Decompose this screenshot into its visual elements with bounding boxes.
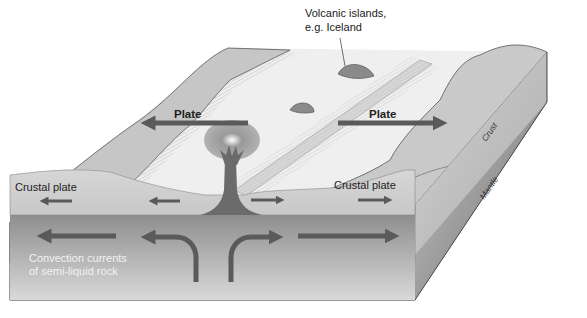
label-convection-1: Convection currents [29, 252, 127, 264]
label-crustal-plate-right: Crustal plate [334, 179, 396, 191]
eruption-plume [204, 120, 260, 160]
plate-tectonics-diagram: Volcanic islands, e.g. Iceland Plate Pla… [0, 0, 587, 318]
label-convection-2: of semi-liquid rock [29, 265, 118, 277]
label-volcanic-islands-2: e.g. Iceland [305, 21, 362, 33]
label-plate-right: Plate [369, 108, 397, 120]
label-plate-left: Plate [174, 108, 202, 120]
diagram-canvas: Volcanic islands, e.g. Iceland Plate Pla… [0, 0, 587, 318]
label-volcanic-islands-1: Volcanic islands, [305, 7, 386, 19]
label-crustal-plate-left: Crustal plate [15, 181, 77, 193]
